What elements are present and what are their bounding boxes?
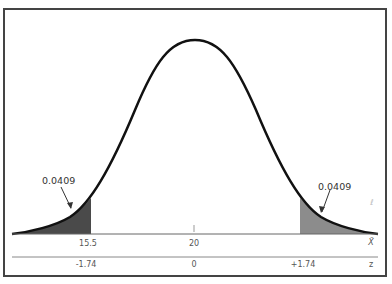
z-axis-name: z bbox=[369, 260, 373, 269]
z-tick-left: -1.74 bbox=[76, 260, 97, 269]
left-area-label: 0.0409 bbox=[42, 175, 75, 186]
x-tick-left: 15.5 bbox=[79, 239, 97, 248]
z-tick-center: 0 bbox=[191, 260, 196, 269]
right-tail-shade bbox=[300, 198, 378, 234]
stray-mark: ℓ bbox=[370, 198, 373, 207]
x-axis-name: X̄ bbox=[368, 238, 373, 247]
left-arrow-head bbox=[67, 202, 73, 209]
x-tick-center: 20 bbox=[189, 239, 199, 248]
left-tail-shade bbox=[12, 198, 91, 234]
bell-curve bbox=[12, 40, 378, 234]
z-tick-right: +1.74 bbox=[291, 260, 316, 269]
right-area-label: 0.0409 bbox=[318, 181, 351, 192]
